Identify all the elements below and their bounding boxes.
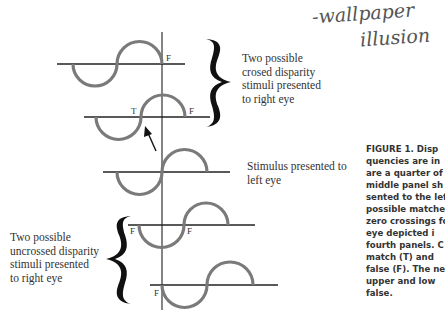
label-uncrossed-disparity: Two possible uncrossed disparity stimuli…	[10, 231, 99, 285]
arrow-icon	[144, 126, 156, 151]
marker-false-panel4-left: F	[130, 225, 135, 239]
caption-line: possible matches	[366, 203, 445, 215]
marker-false-panel2: F	[189, 105, 194, 119]
caption-line: eye depicted i	[366, 227, 445, 239]
caption-line: sented to the lef	[366, 191, 445, 203]
marker-true-panel2: T	[131, 105, 137, 119]
right-curly-brace-icon	[206, 39, 231, 127]
caption-line: false (F). The ne	[366, 263, 445, 275]
label-left-eye-stimulus: Stimulus presented to left eye	[247, 160, 347, 187]
caption-line: quencies are in	[366, 155, 445, 167]
marker-false-panel5: F	[154, 287, 159, 301]
panel-3-left-eye-stimulus	[103, 150, 230, 195]
caption-line: upper and low	[366, 275, 445, 287]
caption-line: middle panel sh	[366, 179, 445, 191]
left-curly-brace-icon	[106, 216, 131, 304]
caption-line: zero crossings fo	[366, 215, 445, 227]
figure-caption: FIGURE 1. Disp quencies are in are a qua…	[366, 143, 445, 299]
caption-line: FIGURE 1. Disp	[366, 143, 445, 155]
caption-line: false.	[366, 287, 445, 299]
panel-5-uncrossed-stimulus-b	[150, 262, 278, 307]
disparity-diagram: F T F F F F Two possible crosed disparit…	[0, 0, 445, 315]
caption-line: are a quarter of	[366, 167, 445, 179]
label-crossed-disparity: Two possible crosed disparity stimuli pr…	[242, 52, 321, 106]
marker-false-panel1: F	[166, 52, 171, 66]
caption-line: match (T) and	[366, 251, 445, 263]
marker-false-panel4-right: F	[187, 225, 192, 239]
caption-line: fourth panels. C	[366, 239, 445, 251]
